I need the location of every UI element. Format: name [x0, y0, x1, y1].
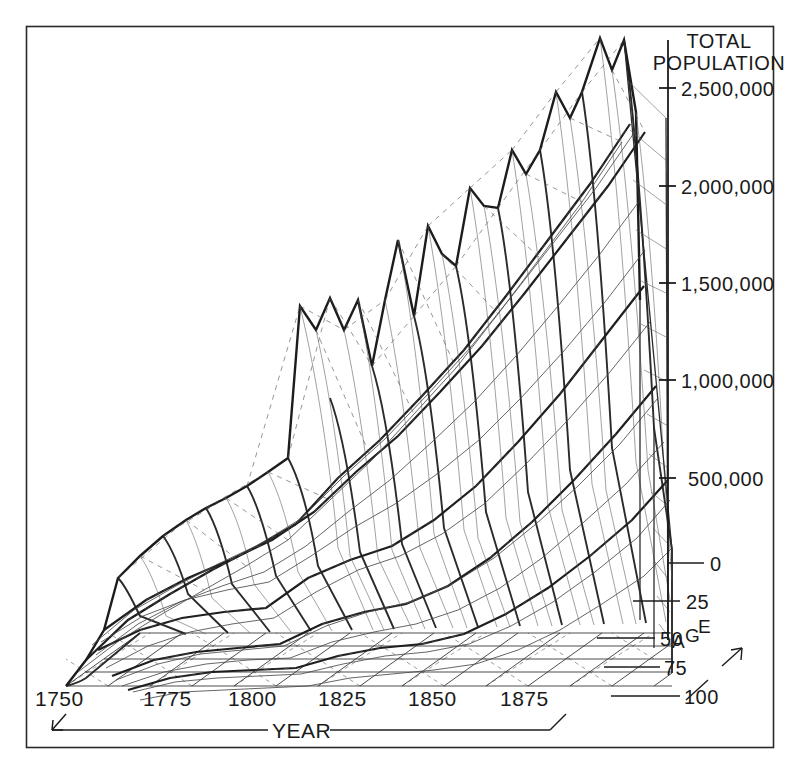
age-tick-label-100: 100 [684, 686, 719, 708]
year-tick-label-1850: 1850 [408, 687, 457, 710]
pop-tick-label-2500000: 2,500,000 [681, 78, 774, 100]
total-population-title-line2: POPULATION [653, 52, 785, 74]
year-tick-label-1875: 1875 [500, 687, 549, 710]
age-axis-label-e: E [698, 616, 711, 637]
surface-dashed-hatching [118, 38, 645, 678]
pop-tick-label-2000000: 2,000,000 [681, 176, 774, 198]
year-tick-label-1800: 1800 [228, 687, 277, 710]
figure-root: TOTAL POPULATION 2,500,000 2,000,000 1,5… [0, 0, 793, 765]
pop-tick-label-500000: 500,000 [688, 468, 764, 490]
year-tick-label-1825: 1825 [318, 687, 367, 710]
surface-year-contours-light [78, 130, 672, 700]
total-population-title-line1: TOTAL [686, 30, 751, 52]
age-tick-label-75: 75 [664, 657, 687, 679]
population-surface-chart: TOTAL POPULATION 2,500,000 2,000,000 1,5… [0, 0, 793, 765]
year-tick-label-1775: 1775 [143, 687, 192, 710]
year-axis-label: YEAR [272, 719, 331, 742]
age-tick-label-0: 0 [710, 553, 722, 575]
pop-tick-label-1000000: 1,000,000 [681, 370, 774, 392]
age-axis-label-a: A [672, 631, 685, 652]
year-tick-label-1750: 1750 [35, 687, 84, 710]
surface-fine-mesh [140, 38, 672, 634]
age-tick-label-25: 25 [686, 591, 709, 613]
pop-tick-label-1500000: 1,500,000 [681, 273, 774, 295]
